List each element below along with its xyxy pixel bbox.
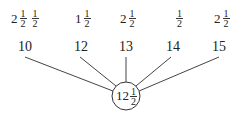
node-13: 13 [119,39,133,55]
top-value-5: 2 12 [214,9,230,28]
fraction: 12 [223,9,230,28]
node-12: 12 [74,39,88,55]
top-value-1: 2 12 12 [11,9,39,28]
denominator: 2 [85,19,90,28]
top-value-4: 12 [176,9,183,28]
denominator: 2 [21,19,26,28]
fraction: 12 [129,9,136,28]
node-14: 14 [166,39,180,55]
whole: 2 [11,11,18,27]
fraction: 12 [130,87,137,106]
top-value-2: 1 12 [75,9,91,28]
whole: 12 [116,88,129,104]
numerator: 1 [130,87,137,97]
top-value-3: 2 12 [120,9,136,28]
center-value: 12 12 [113,83,140,109]
denominator: 2 [131,97,136,106]
denominator: 2 [177,19,182,28]
whole: 2 [120,11,127,27]
line-10 [25,57,113,91]
fraction: 12 [84,9,91,28]
line-14 [136,57,171,86]
node-15: 15 [212,39,226,55]
fraction: 12 [176,9,183,28]
denominator: 2 [224,19,229,28]
line-12 [80,57,116,86]
denominator: 2 [130,19,135,28]
whole: 2 [214,11,221,27]
node-10: 10 [18,39,32,55]
fraction-extra: 12 [32,9,39,28]
fraction: 12 [20,9,27,28]
denominator: 2 [33,19,38,28]
whole: 1 [75,11,82,27]
